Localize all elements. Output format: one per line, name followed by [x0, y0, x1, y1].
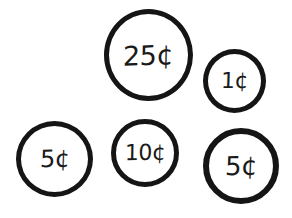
coin-penny: 1¢	[203, 49, 266, 113]
coin-penny-label: 1¢	[221, 70, 249, 92]
coin-illustration-canvas: 25¢ 1¢ 5¢ 10¢ 5¢	[0, 0, 292, 218]
coin-nickel-right-label: 5¢	[224, 153, 257, 180]
coin-nickel-left-label: 5¢	[39, 147, 69, 172]
coin-nickel-left: 5¢	[16, 121, 93, 197]
coin-dime-label: 10¢	[125, 142, 166, 165]
coin-nickel-right: 5¢	[203, 128, 279, 204]
coin-quarter-label: 25¢	[123, 41, 174, 70]
coin-quarter: 25¢	[104, 9, 193, 101]
coin-dime: 10¢	[111, 119, 179, 187]
